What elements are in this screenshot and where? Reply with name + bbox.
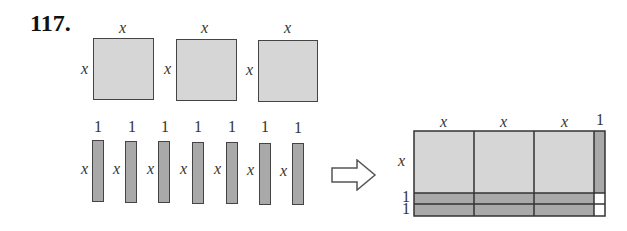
x-squared-tile	[93, 38, 154, 100]
bar-top-label: 1	[194, 118, 202, 136]
bar-side-label: x	[280, 162, 287, 180]
result-side-label: 1	[402, 200, 410, 218]
x-tile	[125, 141, 137, 203]
square-top-label: x	[284, 19, 291, 37]
result-top-label: x	[440, 113, 447, 131]
x-tile	[226, 142, 238, 204]
result-top-label: x	[561, 113, 568, 131]
square-top-label: x	[201, 19, 208, 37]
bar-side-label: x	[180, 160, 187, 178]
bar-side-label: x	[214, 160, 221, 178]
problem-number: 117.	[30, 10, 71, 37]
bar-top-label: 1	[94, 118, 102, 136]
right-arrow-icon	[331, 159, 377, 191]
bar-side-label: x	[81, 160, 88, 178]
x-tile	[92, 140, 104, 202]
bar-side-label: x	[113, 160, 120, 178]
bar-top-label: 1	[261, 118, 269, 136]
result-top-label: 1	[596, 111, 604, 129]
x-tile	[259, 143, 271, 205]
bar-top-label: 1	[294, 119, 302, 137]
x-tile	[292, 143, 304, 205]
bar-top-label: 1	[128, 118, 136, 136]
bar-top-label: 1	[161, 118, 169, 136]
bar-side-label: x	[147, 160, 154, 178]
square-side-label: x	[246, 61, 253, 79]
result-side-label: x	[398, 152, 405, 170]
square-side-label: x	[81, 60, 88, 78]
square-top-label: x	[119, 19, 126, 37]
x-squared-tile	[176, 39, 237, 101]
bar-side-label: x	[247, 161, 254, 179]
area-model-grid	[413, 130, 607, 218]
x-squared-tile	[258, 40, 318, 102]
x-tile	[192, 142, 204, 204]
result-top-label: x	[500, 113, 507, 131]
x-tile	[158, 141, 170, 203]
bar-top-label: 1	[228, 118, 236, 136]
square-side-label: x	[164, 60, 171, 78]
